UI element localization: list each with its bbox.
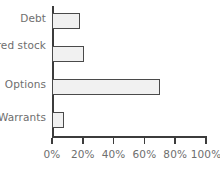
category-label-debt: Debt	[0, 12, 46, 25]
x-tick-mark	[144, 138, 146, 144]
x-tick-label: 80%	[163, 148, 187, 161]
category-label-options: Options	[0, 78, 46, 91]
x-tick-label: 100%	[191, 148, 220, 161]
x-tick-mark	[51, 138, 53, 144]
bar-row	[52, 72, 206, 105]
x-tick-mark	[174, 138, 176, 144]
bar-row	[52, 6, 206, 39]
x-tick-label: 20%	[71, 148, 95, 161]
category-label-preferred-stock: Preferred stock	[0, 39, 46, 52]
x-tick-label: 0%	[44, 148, 61, 161]
bar-debt	[52, 13, 80, 29]
x-tick-mark	[113, 138, 115, 144]
bar-preferred-stock	[52, 46, 84, 62]
bar-options	[52, 79, 160, 95]
bar-warrants	[52, 112, 64, 128]
bar-row	[52, 39, 206, 72]
bar-row	[52, 105, 206, 138]
x-tick-mark	[82, 138, 84, 144]
bar-chart: Debt Preferred stock Options Warrants 0%…	[0, 0, 220, 175]
plot-area	[52, 6, 206, 138]
category-label-warrants: Warrants	[0, 111, 46, 124]
x-tick-label: 40%	[102, 148, 126, 161]
x-tick-label: 60%	[133, 148, 157, 161]
x-tick-mark	[205, 138, 207, 144]
